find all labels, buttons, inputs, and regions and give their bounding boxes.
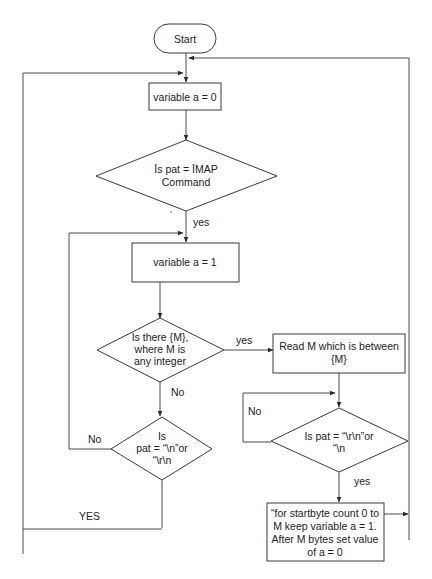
node-start: Start: [154, 24, 216, 53]
edge-outer-left-loop: [23, 73, 183, 554]
edge-label-left-no: No: [88, 433, 102, 445]
left-dec-line-3: “\r\n: [153, 454, 172, 466]
edge-label-has-m-yes: yes: [236, 334, 252, 346]
read-m-line-2: {M}: [331, 353, 347, 365]
set-a0-label: variable a = 0: [153, 91, 216, 103]
node-read-m: Read M which is between {M}: [273, 334, 405, 373]
flowchart-canvas: Start variable a = 0 Īs pat = ĪMAP Comma…: [0, 0, 432, 579]
start-label: Start: [174, 33, 196, 45]
edge-outer-right-loop: [189, 58, 409, 540]
edge-label-right-no: No: [248, 405, 262, 417]
right-dec-line-1: Is pat = “\r\n”or: [304, 430, 374, 442]
edge-label-has-m-no: No: [171, 386, 185, 398]
edge-label-right-yes: yes: [354, 475, 370, 487]
read-m-line-1: Read M which is between: [279, 340, 399, 352]
left-dec-line-1: Is: [158, 430, 166, 442]
startbyte-line-4: of a = 0: [307, 546, 342, 558]
node-is-newline-right: Is pat = “\r\n”or “\n: [271, 408, 408, 472]
speck-mark: [170, 211, 171, 212]
set-a1-label: variable a = 1: [153, 256, 216, 268]
right-dec-line-2: “\n: [333, 442, 345, 454]
has-m-line-1: Is there {M},: [132, 331, 189, 343]
is-imap-line-2: Command: [162, 176, 211, 188]
has-m-line-3: any integer: [134, 355, 186, 367]
node-startbyte: “for startbyte count 0 to M keep variabl…: [267, 503, 384, 561]
startbyte-line-2: M keep variable a = 1.: [273, 520, 377, 532]
is-imap-line-1: Īs pat = ĪMAP: [154, 163, 217, 175]
edge-label-imap-yes: yes: [193, 216, 209, 228]
startbyte-line-3: After M bytes set value: [272, 533, 379, 545]
flowchart-svg: Start variable a = 0 Īs pat = ĪMAP Comma…: [0, 0, 432, 579]
node-set-a1: variable a = 1: [132, 243, 239, 282]
left-dec-line-2: pat = “\n”or: [136, 442, 188, 454]
node-is-imap: Īs pat = ĪMAP Command: [96, 140, 277, 211]
has-m-line-2: where M is: [134, 343, 186, 355]
node-has-m: Is there {M}, where M is any integer: [97, 318, 224, 382]
node-is-newline-left: Is pat = “\n”or “\r\n: [111, 417, 212, 480]
edge-label-left-yes: YES: [79, 510, 100, 522]
connectors: [23, 53, 409, 554]
node-set-a0: variable a = 0: [149, 83, 221, 110]
startbyte-line-1: “for startbyte count 0 to: [271, 507, 379, 519]
